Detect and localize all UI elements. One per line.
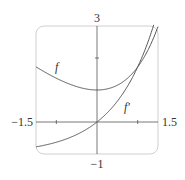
y-max-label: 3	[94, 11, 100, 25]
series-label-fprime: f′	[124, 100, 130, 114]
x-max-label: 1.5	[162, 115, 177, 129]
curve-fprime	[36, 25, 154, 147]
x-min-label: −1.5	[11, 115, 33, 129]
y-min-label: −1	[91, 157, 104, 171]
chart: 3 −1 −1.5 1.5 f f′	[0, 0, 185, 180]
series-label-f: f	[55, 60, 60, 74]
